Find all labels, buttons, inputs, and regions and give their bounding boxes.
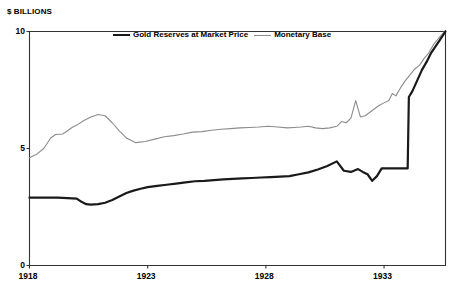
series-group (30, 30, 446, 204)
monetary-base-line (30, 30, 446, 158)
x-tick-label: 1933 (373, 272, 392, 281)
axes-group (27, 32, 446, 269)
legend-label-gold-reserves: Gold Reserves at Market Price (133, 31, 248, 39)
legend-item-monetary-base: Monetary Base (254, 31, 331, 39)
axis-frame (30, 32, 446, 266)
monetary-base-line-swatch (254, 35, 271, 36)
y-tick-label: 10 (0, 27, 25, 36)
gold-line-swatch (113, 34, 130, 36)
x-tick-label: 1918 (19, 272, 38, 281)
chart-legend: Gold Reserves at Market Price Monetary B… (113, 31, 331, 39)
y-tick-label: 0 (0, 261, 25, 270)
y-axis-title: $ BILLIONS (7, 7, 52, 16)
plot-area (0, 0, 462, 302)
legend-item-gold-reserves: Gold Reserves at Market Price (113, 31, 248, 39)
legend-label-monetary-base: Monetary Base (274, 31, 331, 39)
x-tick-label: 1928 (255, 272, 274, 281)
x-tick-label: 1923 (137, 272, 156, 281)
y-tick-label: 5 (0, 144, 25, 153)
gold-reserves-line (30, 32, 446, 205)
chart-container: $ BILLIONS Gold Reserves at Market Price… (0, 0, 462, 302)
